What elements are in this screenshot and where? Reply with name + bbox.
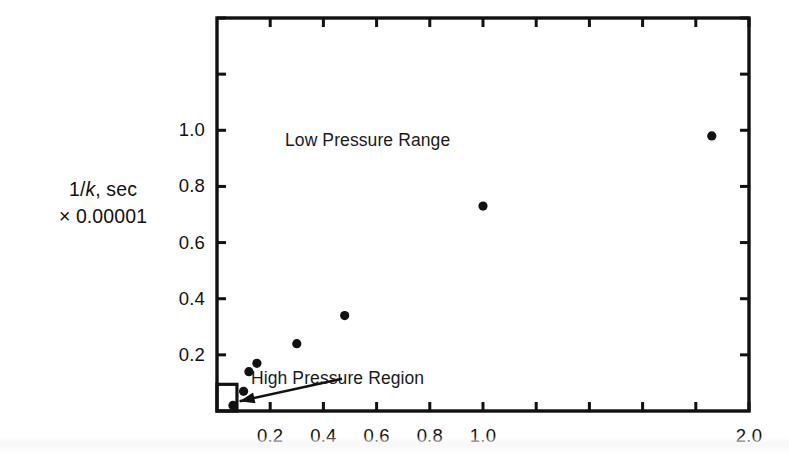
y-tick-label-3: 0.8 <box>155 175 205 197</box>
data-point-1 <box>239 387 248 396</box>
low-pressure-range-label: Low Pressure Range <box>285 130 450 151</box>
chart-figure: 1/k, sec × 0.00001 0.20.40.60.81.02.00.2… <box>0 0 789 470</box>
x-tick-label-0: 0.2 <box>257 425 283 447</box>
x-tick-label-4: 1.0 <box>470 425 496 447</box>
data-point-3 <box>252 359 261 368</box>
y-tick-label-0: 0.2 <box>155 344 205 366</box>
high-pressure-region-label: High Pressure Region <box>251 368 424 389</box>
y-tick-label-2: 0.6 <box>155 232 205 254</box>
data-point-7 <box>707 131 716 140</box>
data-point-6 <box>478 201 487 210</box>
axes-border <box>217 18 749 411</box>
data-point-0 <box>228 401 237 410</box>
axis-ticks <box>217 18 749 411</box>
x-tick-label-9: 2.0 <box>736 425 762 447</box>
plot-area <box>0 0 789 470</box>
x-tick-label-3: 0.8 <box>417 425 443 447</box>
x-tick-label-2: 0.6 <box>363 425 389 447</box>
data-point-5 <box>340 311 349 320</box>
axes-frame <box>217 18 749 411</box>
x-tick-label-1: 0.4 <box>310 425 336 447</box>
data-point-4 <box>292 339 301 348</box>
y-tick-label-4: 1.0 <box>155 119 205 141</box>
y-tick-label-1: 0.4 <box>155 288 205 310</box>
